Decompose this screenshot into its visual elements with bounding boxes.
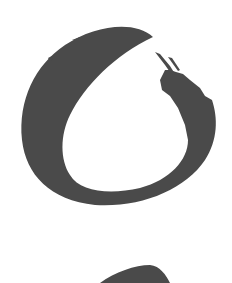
enso-ring — [21, 27, 215, 206]
enso-brush-circle-icon — [0, 0, 232, 283]
second-stroke-partial — [100, 265, 170, 283]
